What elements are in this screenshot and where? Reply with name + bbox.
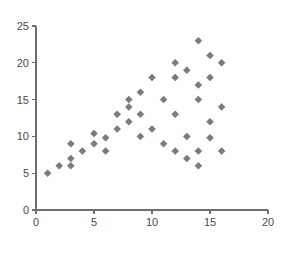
scatter-chart: 0510152025 05101520 bbox=[0, 0, 288, 253]
data-point-marker bbox=[218, 103, 225, 110]
y-tick-label: 10 bbox=[17, 130, 29, 142]
data-point-marker bbox=[218, 59, 225, 66]
data-point-marker bbox=[67, 140, 74, 147]
x-axis-ticks: 05101520 bbox=[33, 210, 274, 228]
data-points-group bbox=[44, 37, 225, 176]
data-point-marker bbox=[44, 170, 51, 177]
data-point-marker bbox=[149, 126, 156, 133]
data-point-marker bbox=[102, 134, 109, 141]
data-point-marker bbox=[137, 89, 144, 96]
data-point-marker bbox=[195, 96, 202, 103]
data-point-marker bbox=[91, 140, 98, 147]
data-point-marker bbox=[207, 52, 214, 59]
data-point-marker bbox=[67, 162, 74, 169]
x-tick-label: 15 bbox=[204, 216, 216, 228]
data-point-marker bbox=[172, 111, 179, 118]
data-point-marker bbox=[114, 126, 121, 133]
y-tick-label: 0 bbox=[23, 204, 29, 216]
y-axis-ticks: 0510152025 bbox=[17, 20, 36, 216]
data-point-marker bbox=[125, 96, 132, 103]
y-tick-label: 15 bbox=[17, 94, 29, 106]
data-point-marker bbox=[102, 148, 109, 155]
data-point-marker bbox=[149, 74, 156, 81]
data-point-marker bbox=[125, 118, 132, 125]
data-point-marker bbox=[137, 133, 144, 140]
x-tick-label: 20 bbox=[262, 216, 274, 228]
y-tick-label: 20 bbox=[17, 57, 29, 69]
data-point-marker bbox=[137, 111, 144, 118]
data-point-marker bbox=[207, 118, 214, 125]
x-tick-label: 5 bbox=[91, 216, 97, 228]
x-tick-label: 10 bbox=[146, 216, 158, 228]
y-tick-label: 25 bbox=[17, 20, 29, 32]
data-point-marker bbox=[195, 37, 202, 44]
data-point-marker bbox=[195, 162, 202, 169]
data-point-marker bbox=[114, 111, 121, 118]
data-point-marker bbox=[160, 96, 167, 103]
axes-group bbox=[36, 26, 268, 210]
data-point-marker bbox=[183, 67, 190, 74]
data-point-marker bbox=[79, 148, 86, 155]
data-point-marker bbox=[218, 148, 225, 155]
data-point-marker bbox=[160, 140, 167, 147]
data-point-marker bbox=[207, 134, 214, 141]
plot-area: 0510152025 05101520 bbox=[0, 0, 288, 253]
data-point-marker bbox=[207, 74, 214, 81]
data-point-marker bbox=[172, 148, 179, 155]
data-point-marker bbox=[56, 162, 63, 169]
data-point-marker bbox=[195, 81, 202, 88]
x-tick-label: 0 bbox=[33, 216, 39, 228]
data-point-marker bbox=[67, 155, 74, 162]
data-point-marker bbox=[91, 130, 98, 137]
data-point-marker bbox=[195, 148, 202, 155]
data-point-marker bbox=[172, 74, 179, 81]
y-tick-label: 5 bbox=[23, 167, 29, 179]
data-point-marker bbox=[172, 59, 179, 66]
data-point-marker bbox=[183, 155, 190, 162]
data-point-marker bbox=[183, 133, 190, 140]
data-point-marker bbox=[125, 103, 132, 110]
